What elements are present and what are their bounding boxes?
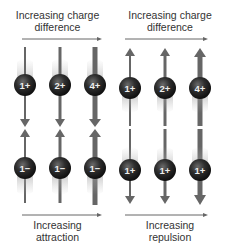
charge-label: 1+ — [160, 165, 171, 176]
force-arrow-down-icon — [194, 195, 206, 205]
charge-label: 1− — [55, 163, 66, 174]
left-column-3 — [84, 47, 106, 205]
charge-label: 1+ — [20, 80, 31, 91]
force-arrow-down-icon — [125, 196, 135, 204]
force-arrow-up-icon — [89, 129, 101, 137]
force-arrow-down-icon — [55, 119, 65, 127]
left-column-1 — [14, 47, 36, 203]
left-bottom-arrow-icon — [22, 213, 102, 217]
charge-label: 2+ — [55, 80, 66, 91]
force-arrow-up-icon — [125, 48, 135, 56]
force-arrow-down-icon — [20, 119, 30, 127]
charge-label: 1− — [20, 163, 31, 174]
right-bottom-arrow-icon — [125, 213, 208, 217]
force-arrow-up-icon — [20, 129, 30, 137]
charge-label: 1+ — [195, 165, 206, 176]
charge-label: 1+ — [125, 83, 136, 94]
left-column-2 — [49, 47, 71, 203]
charge-label: 4+ — [195, 83, 206, 94]
charge-label: 2+ — [160, 83, 171, 94]
charge-label: 4+ — [90, 80, 101, 91]
right-top-arrow-icon — [125, 37, 208, 41]
right-column-3 — [189, 48, 211, 205]
force-arrow-down-icon — [89, 119, 101, 127]
force-arrow-up-icon — [55, 129, 65, 137]
left-top-arrow-icon — [22, 37, 102, 41]
right-column-2 — [154, 48, 176, 204]
force-arrow-up-icon — [160, 48, 170, 56]
charge-label: 1− — [90, 163, 101, 174]
charge-label: 1+ — [125, 165, 136, 176]
diagram-canvas: 1+ 2+ 4+ 1− 1− 1− 1+ 2+ 4+ 1+ 1+ 1+ — [0, 0, 230, 249]
right-column-1 — [119, 48, 141, 204]
force-arrow-down-icon — [160, 196, 170, 204]
